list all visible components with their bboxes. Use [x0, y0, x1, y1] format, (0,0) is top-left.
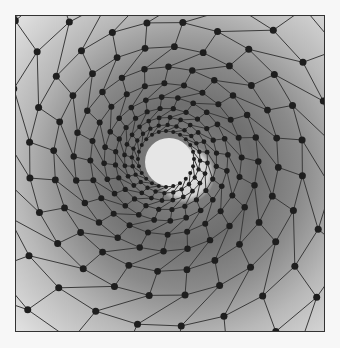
ring-edge — [77, 111, 87, 133]
lattice-node — [253, 134, 259, 140]
ring-edge — [54, 151, 56, 180]
lattice-node — [214, 150, 219, 155]
lattice-svg — [16, 16, 325, 332]
spoke-edge — [239, 244, 250, 267]
lattice-node — [239, 154, 245, 160]
lattice-node — [164, 129, 168, 133]
ring-edge — [251, 242, 276, 268]
ring-edge — [181, 316, 224, 326]
spoke-edge — [318, 229, 325, 253]
lattice-node — [144, 137, 148, 141]
lattice-node — [178, 181, 182, 185]
lattice-node — [197, 150, 201, 154]
lattice-node — [146, 292, 153, 299]
lattice-node — [216, 282, 223, 289]
lattice-node — [131, 183, 136, 188]
lattice-node — [89, 138, 95, 144]
lattice-node — [143, 98, 149, 104]
lattice-node — [156, 207, 161, 212]
lattice-node — [313, 294, 320, 301]
lattice-node — [36, 209, 43, 216]
lattice-node — [142, 45, 149, 52]
ring-edge — [317, 254, 325, 298]
ring-edge — [249, 49, 275, 74]
lattice-node — [135, 138, 139, 142]
spoke-edge — [100, 123, 105, 148]
lattice-node — [161, 80, 167, 86]
spoke-edge — [162, 85, 184, 97]
ring-edge — [114, 286, 149, 295]
lattice-node — [140, 171, 144, 175]
lattice-node — [96, 219, 102, 225]
lattice-node — [159, 94, 165, 100]
lattice-node — [61, 204, 68, 211]
lattice-node — [171, 43, 178, 50]
lattice-node — [181, 195, 186, 200]
spoke-edge — [56, 22, 69, 76]
spoke-edge — [71, 311, 95, 332]
lattice-node — [125, 142, 130, 147]
lattice-node — [178, 322, 185, 329]
lattice-node — [136, 212, 142, 218]
ring-edge — [54, 122, 60, 151]
spoke-edge — [215, 260, 220, 285]
lattice-node — [169, 207, 174, 212]
lattice-node — [211, 77, 217, 83]
lattice-node — [77, 229, 84, 236]
ring-edge — [145, 47, 174, 49]
lattice-node — [259, 292, 266, 299]
spoke-edge — [59, 286, 115, 287]
lattice-node — [275, 164, 282, 171]
lattice-node — [189, 134, 193, 138]
lattice-node — [290, 207, 297, 214]
spoke-edge — [263, 242, 276, 296]
lattice-node — [145, 186, 149, 190]
spoke-edge — [295, 266, 317, 297]
lattice-node — [204, 109, 210, 115]
lattice-node — [164, 185, 168, 189]
lattice-node — [222, 136, 228, 142]
spoke-edge — [138, 295, 186, 324]
spoke-edge — [110, 107, 111, 132]
spoke-edge — [130, 220, 155, 225]
lattice-node — [171, 184, 175, 188]
spoke-edge — [168, 53, 203, 67]
lattice-node — [140, 143, 144, 147]
spoke-edge — [221, 186, 222, 211]
ring-edge — [255, 161, 259, 185]
lattice-node — [26, 139, 33, 146]
lattice-node — [125, 262, 132, 269]
ring-edge — [192, 70, 214, 80]
ring-edge — [259, 196, 272, 222]
lattice-node — [179, 187, 183, 191]
lattice-node — [229, 192, 235, 198]
lattice-node — [66, 19, 73, 26]
lattice-node — [119, 75, 125, 81]
lattice-node — [130, 164, 134, 168]
lattice-node — [165, 232, 171, 238]
lattice-node — [126, 174, 131, 179]
lattice-node — [207, 237, 213, 243]
lattice-node — [153, 189, 157, 193]
lattice-node — [145, 230, 151, 236]
ring-edge — [276, 211, 294, 242]
lattice-node — [182, 204, 187, 209]
lattice-node — [224, 168, 230, 174]
lattice-node — [205, 161, 210, 166]
lattice-node — [146, 119, 151, 124]
lattice-node — [127, 222, 133, 228]
lattice-node — [26, 175, 33, 182]
lattice-node — [170, 198, 175, 203]
ring-edge — [69, 16, 108, 22]
ring-edge — [129, 265, 158, 271]
spoke-edge — [112, 32, 117, 57]
lattice-node — [53, 73, 60, 80]
ring-edge — [58, 244, 84, 269]
lattice-node — [99, 89, 105, 95]
lattice-node — [183, 110, 188, 115]
lattice-node — [123, 125, 128, 130]
ring-edge — [16, 52, 37, 89]
lattice-node — [210, 176, 215, 181]
lattice-node — [199, 90, 205, 96]
lattice-node — [112, 191, 118, 197]
